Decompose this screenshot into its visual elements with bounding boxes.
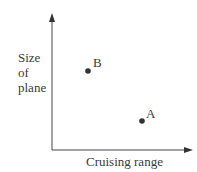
y-axis-label: Size of plane bbox=[18, 50, 46, 95]
point-a-label: A bbox=[146, 106, 155, 121]
y-axis-label-line-3: plane bbox=[18, 80, 46, 95]
x-axis-label: Cruising range bbox=[86, 154, 163, 169]
y-axis-label-line-1: Size bbox=[18, 50, 46, 65]
point-b bbox=[85, 68, 91, 74]
point-b-label: B bbox=[93, 55, 102, 70]
x-axis-arrow-icon bbox=[184, 147, 193, 153]
y-axis-label-line-2: of bbox=[18, 65, 46, 80]
y-axis-arrow-icon bbox=[49, 13, 55, 22]
point-a bbox=[139, 118, 145, 124]
